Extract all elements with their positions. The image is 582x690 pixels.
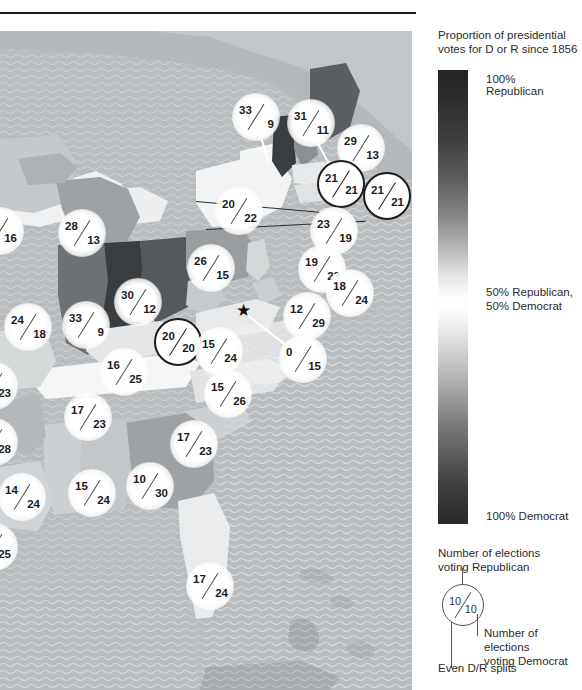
marker-democrat-count: 21 [391, 197, 404, 209]
marker-democrat-count: 24 [355, 295, 368, 307]
marker-republican-count: 28 [65, 221, 78, 233]
marker-democrat-count: 24 [215, 588, 228, 600]
marker-republican-count: 12 [290, 304, 303, 316]
legend-label-republican-max: 100% Republican [486, 73, 573, 97]
state-marker-la[interactable]: 25 [0, 523, 18, 571]
legend-label-midpoint: 50% Republican, 50% Democrat [486, 285, 573, 313]
marker-republican-count: 20 [222, 199, 235, 211]
state-marker-ny[interactable]: 2022 [215, 187, 263, 235]
state-marker-il[interactable]: 2418 [4, 303, 52, 351]
marker-republican-count: 16 [107, 360, 120, 372]
state-marker-va[interactable]: 1229 [283, 292, 331, 340]
marker-democrat-count: 15 [216, 270, 229, 282]
marker-republican-count: 21 [325, 173, 338, 185]
marker-republican-count: 15 [211, 382, 224, 394]
marker-republican-count: 21 [371, 185, 384, 197]
legend-key-title: Number of elections voting Republican [438, 546, 582, 574]
state-marker-ma[interactable]: 2121 [317, 160, 365, 208]
state-marker-fl[interactable]: 1724 [186, 562, 234, 610]
marker-democrat-count: 26 [233, 396, 246, 408]
state-marker-ri[interactable]: 2121 [363, 172, 411, 220]
marker-republican-count: 26 [194, 256, 207, 268]
marker-republican-count: 17 [177, 432, 190, 444]
marker-republican-count: 31 [294, 111, 307, 123]
legend-label-midpoint-line1: 50% Republican, [486, 285, 573, 299]
marker-disc [0, 473, 46, 521]
marker-democrat-count: 23 [93, 419, 106, 431]
legend-key-democrat-value: 10 [465, 604, 477, 615]
map-panel[interactable]: ★ 33931112913212121212319202219231824261… [0, 31, 412, 690]
state-marker-ky[interactable]: 1625 [100, 348, 148, 396]
legend-key-tick-democrat [477, 614, 478, 636]
legend-label-midpoint-line2: 50% Democrat [486, 299, 573, 313]
legend-panel: Proportion of presidential votes for D o… [416, 12, 573, 690]
state-marker-ms[interactable]: 1424 [0, 473, 46, 521]
state-marker-md[interactable]: 1524 [195, 327, 243, 375]
state-marker-mi[interactable]: 2813 [58, 209, 106, 257]
state-marker-pa[interactable]: 2615 [187, 244, 235, 292]
state-marker-wi[interactable]: 16 [0, 207, 24, 255]
marker-republican-count: 18 [333, 281, 346, 293]
state-marker-in[interactable]: 339 [62, 301, 110, 349]
color-scale-bar [438, 70, 468, 524]
marker-republican-count: 17 [71, 405, 84, 417]
marker-democrat-count: 12 [143, 304, 156, 316]
marker-republican-count: 29 [344, 136, 357, 148]
state-marker-dc[interactable]: 015 [279, 335, 327, 383]
legend-scale-title-line2: votes for D or R since 1856 [438, 42, 578, 56]
legend-scale-title-line1: Proportion of presidential [438, 28, 578, 42]
marker-republican-count: 23 [317, 219, 330, 231]
marker-democrat-count: 20 [182, 343, 195, 355]
marker-republican-count: 33 [239, 105, 252, 117]
marker-republican-count: 14 [5, 485, 18, 497]
marker-democrat-count: 24 [224, 353, 237, 365]
marker-democrat-count: 23 [199, 446, 212, 458]
state-marker-tn[interactable]: 1723 [64, 393, 112, 441]
state-marker-de[interactable]: 1824 [326, 269, 374, 317]
marker-democrat-count: 21 [345, 185, 358, 197]
marker-democrat-count: 25 [129, 374, 142, 386]
state-marker-al[interactable]: 1524 [68, 469, 116, 517]
state-marker-ga[interactable]: 1030 [126, 462, 174, 510]
marker-democrat-count: 24 [97, 495, 110, 507]
marker-disc [0, 207, 24, 255]
legend-key-title-line2: voting Republican [438, 560, 582, 574]
legend-label-democrat-max: 100% Democrat [486, 510, 568, 522]
marker-democrat-count: 11 [317, 125, 329, 137]
marker-republican-count: 15 [202, 339, 215, 351]
marker-republican-count: 20 [162, 331, 175, 343]
state-marker-nc[interactable]: 1526 [204, 370, 252, 418]
state-marker-ar[interactable]: 28 [0, 418, 18, 466]
legend-key-democrat-label-line1: Number of elections [484, 626, 579, 654]
marker-democrat-count: 19 [339, 233, 352, 245]
marker-republican-count: 17 [193, 574, 206, 586]
marker-democrat-count: 29 [312, 318, 325, 330]
marker-disc [0, 362, 18, 410]
state-marker-vt[interactable]: 339 [232, 93, 280, 141]
state-marker-sc[interactable]: 1723 [170, 420, 218, 468]
marker-democrat-count: 16 [4, 233, 17, 245]
marker-democrat-count: 13 [366, 150, 379, 162]
cut-off-title [120, 0, 420, 6]
marker-democrat-count: 25 [0, 549, 11, 561]
marker-republican-count: 24 [11, 315, 24, 327]
marker-democrat-count: 15 [308, 361, 321, 373]
marker-democrat-count: 22 [244, 213, 257, 225]
marker-democrat-count: 23 [0, 388, 11, 400]
marker-republican-count: 19 [305, 257, 318, 269]
marker-republican-count: 10 [133, 474, 146, 486]
marker-democrat-count: 30 [155, 488, 168, 500]
state-marker-me[interactable]: 3111 [287, 99, 335, 147]
marker-democrat-count: 13 [87, 235, 100, 247]
state-marker-mo[interactable]: 23 [0, 362, 18, 410]
legend-even-split-label: Even D/R splits [438, 662, 517, 674]
marker-republican-count: 15 [75, 481, 88, 493]
legend-scale-title: Proportion of presidential votes for D o… [438, 28, 578, 56]
marker-democrat-count: 18 [33, 329, 46, 341]
legend-key-title-line1: Number of elections [438, 546, 582, 560]
marker-disc [0, 523, 18, 571]
marker-democrat-count: 9 [268, 119, 274, 131]
legend-key-republican-value: 10 [449, 596, 461, 607]
marker-republican-count: 30 [121, 290, 134, 302]
